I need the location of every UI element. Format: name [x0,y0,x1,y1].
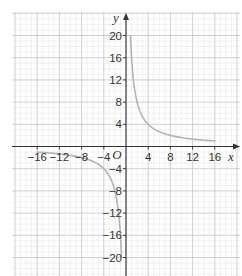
y-tick-label: −16 [102,229,122,241]
x-tick-label: 12 [186,151,199,163]
x-tick-label: −4 [97,151,111,163]
x-tick-label: 16 [208,151,221,163]
y-tick-label: 4 [116,118,123,130]
x-tick-label: −8 [75,151,88,163]
y-tick-label: −4 [109,163,123,175]
y-tick-label: −20 [102,252,122,264]
y-tick-label: 20 [109,30,122,42]
x-tick-label: −16 [27,151,47,163]
y-tick-label: 16 [109,52,122,64]
x-tick-label: 4 [145,151,152,163]
y-axis-title: y [111,10,119,25]
origin-label: O [112,147,122,162]
x-tick-label: −12 [50,151,70,163]
y-tick-label: −8 [109,185,122,197]
y-tick-label: 8 [116,96,122,108]
y-tick-label: −12 [102,207,122,219]
y-tick-label: 12 [109,74,122,86]
hyperbola-chart: −16−12−8−448121620161284−4−8−12−16−20xyO [0,0,242,276]
x-tick-label: 8 [167,151,173,163]
x-axis-title: x [227,149,234,164]
